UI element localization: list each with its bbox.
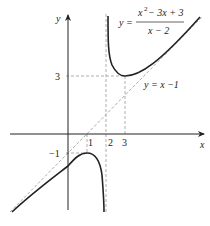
tick-y-3: 3	[55, 71, 60, 82]
y-axis-label: y	[55, 13, 61, 24]
curve-eq-numerator-x: x	[137, 7, 143, 18]
tick-x-3: 3	[122, 137, 127, 148]
tick-x-2: 2	[108, 137, 113, 148]
asymptote-equation: y = x −1	[143, 79, 179, 90]
curve-eq-denominator: x − 2	[147, 25, 169, 36]
graph: y x 1 2 3 3 −1 y = x 2 − 3x + 3 x − 2 y …	[0, 0, 210, 226]
curve-eq-numerator-rest: − 3x + 3	[148, 7, 183, 18]
curve-equation: y = x 2 − 3x + 3 x − 2	[118, 5, 184, 36]
curve-eq-lhs: y =	[118, 17, 133, 28]
tick-x-1: 1	[88, 137, 93, 148]
tick-y-minus1: −1	[49, 148, 60, 159]
curve-left-branch	[12, 153, 104, 212]
x-axis-label: x	[199, 139, 205, 150]
